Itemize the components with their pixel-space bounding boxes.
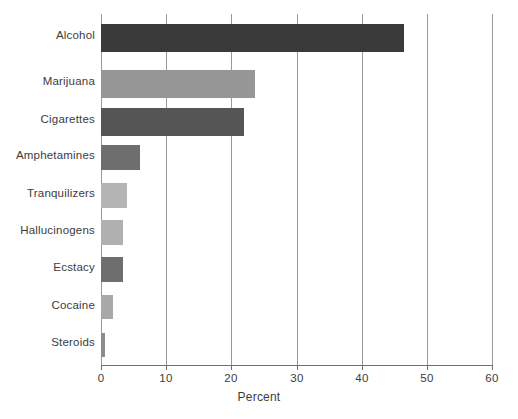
category-label-cigarettes: Cigarettes bbox=[41, 113, 95, 125]
tick-mark-60 bbox=[492, 365, 493, 370]
bar-ecstacy bbox=[101, 257, 123, 282]
gridline-20 bbox=[231, 14, 232, 365]
gridline-50 bbox=[427, 14, 428, 365]
x-tick-label-50: 50 bbox=[407, 372, 447, 384]
gridline-10 bbox=[166, 14, 167, 365]
bar-alcohol bbox=[101, 24, 404, 52]
x-tick-label-10: 10 bbox=[146, 372, 186, 384]
bar-hallucinogens bbox=[101, 220, 123, 245]
tick-mark-40 bbox=[362, 365, 363, 370]
bar-tranquilizers bbox=[101, 183, 127, 208]
tick-mark-30 bbox=[297, 365, 298, 370]
tick-mark-0 bbox=[101, 365, 102, 370]
gridline-60 bbox=[492, 14, 493, 365]
gridline-30 bbox=[297, 14, 298, 365]
gridline-40 bbox=[362, 14, 363, 365]
x-axis-title: Percent bbox=[0, 390, 518, 404]
category-label-steroids: Steroids bbox=[51, 336, 95, 348]
x-tick-label-60: 60 bbox=[472, 372, 512, 384]
category-label-tranquilizers: Tranquilizers bbox=[27, 187, 95, 199]
category-label-ecstacy: Ecstacy bbox=[53, 261, 95, 273]
x-tick-label-0: 0 bbox=[81, 372, 121, 384]
category-label-amphetamines: Amphetamines bbox=[16, 149, 95, 161]
plot-area bbox=[101, 14, 492, 365]
category-label-alcohol: Alcohol bbox=[56, 29, 95, 41]
bar-cigarettes bbox=[101, 108, 244, 136]
tick-mark-20 bbox=[231, 365, 232, 370]
tick-mark-50 bbox=[427, 365, 428, 370]
x-tick-label-40: 40 bbox=[342, 372, 382, 384]
bar-cocaine bbox=[101, 295, 113, 319]
bar-chart: Alcohol Marijuana Cigarettes Amphetamine… bbox=[0, 0, 518, 419]
bar-marijuana bbox=[101, 70, 255, 98]
bar-steroids bbox=[101, 333, 105, 357]
category-label-hallucinogens: Hallucinogens bbox=[20, 224, 95, 236]
tick-mark-10 bbox=[166, 365, 167, 370]
category-label-cocaine: Cocaine bbox=[51, 299, 95, 311]
category-label-marijuana: Marijuana bbox=[43, 75, 95, 87]
x-tick-label-30: 30 bbox=[277, 372, 317, 384]
bar-amphetamines bbox=[101, 145, 140, 170]
x-tick-label-20: 20 bbox=[211, 372, 251, 384]
